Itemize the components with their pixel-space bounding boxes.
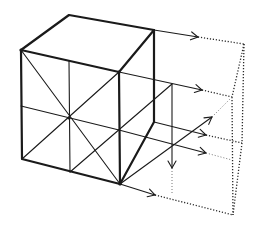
dotted-front-vertical (232, 97, 233, 215)
vertex-top-right (117, 70, 120, 73)
vertex-bottom-right (118, 182, 121, 185)
vertex-center (67, 116, 70, 119)
top-face (21, 15, 154, 72)
dotted-top (198, 37, 244, 44)
dotted-slant-upper (232, 44, 244, 97)
arrow-top-shaft (154, 30, 198, 37)
dotted-mid (206, 153, 232, 160)
dotted-upper (202, 90, 232, 97)
diagonal-tl-br (21, 50, 120, 184)
inner-construction-lines (70, 84, 212, 184)
diagonal-bl-tr (22, 72, 119, 159)
inner-diagonal-upper (70, 84, 172, 172)
cube-outline (21, 15, 154, 184)
midline-extension (119, 130, 206, 153)
dotted-right-vertical (242, 44, 244, 143)
vertex-top-left (19, 48, 22, 51)
dotted-bottom (155, 195, 233, 215)
dotted-diagonal (212, 97, 232, 117)
dotted-back-bottom (206, 135, 242, 143)
cube-projection-diagram (0, 0, 257, 225)
right-back-edge (120, 30, 154, 184)
arrow-upper-shaft (119, 72, 202, 90)
back-bottom-extension (154, 122, 206, 135)
front-face-guides (21, 50, 120, 184)
dotted-slant-lower (233, 143, 242, 215)
